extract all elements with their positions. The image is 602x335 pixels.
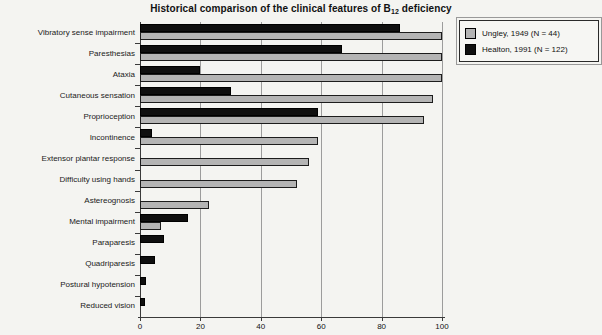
legend-label-ungley: Ungley, 1949 (N = 44) [482,29,560,38]
category-label-ataxia: Ataxia [2,70,135,80]
plot-area [140,22,442,317]
bar-healton-paresthesias [140,45,342,53]
y-axis-tick [135,148,140,149]
x-axis-tick-80 [382,318,383,321]
category-label-astereognosis: Astereognosis [2,196,135,206]
legend-swatch-ungley-icon [465,28,476,39]
x-tick-label-60: 60 [317,322,326,331]
y-axis-tick [135,64,140,65]
y-axis-tick [135,106,140,107]
category-label-paraparesis: Paraparesis [2,238,135,248]
y-axis-tick [135,233,140,234]
category-label-mental-impairment: Mental impairment [2,217,135,227]
chart-title-subscript: 12 [391,8,399,15]
y-axis-tick [135,254,140,255]
bar-ungley-mental-impairment [140,222,161,230]
category-label-quadriparesis: Quadriparesis [2,259,135,269]
y-axis-tick [135,275,140,276]
y-axis-tick [135,43,140,44]
x-tick-label-100: 100 [435,322,448,331]
category-label-proprioception: Proprioception [2,112,135,122]
gridline-80 [382,22,383,317]
x-tick-label-40: 40 [256,322,265,331]
category-label-paresthesias: Paresthesias [2,49,135,59]
legend-label-healton: Healton, 1991 (N = 122) [482,45,568,54]
bar-ungley-difficulty-using-hands [140,180,297,188]
category-label-vibratory-sense-impairment: Vibratory sense impairment [2,28,135,38]
y-axis-tick [135,212,140,213]
bar-ungley-cutaneous-sensation [140,95,433,103]
bar-healton-postural-hypotension [140,277,146,285]
bar-healton-cutaneous-sensation [140,87,231,95]
bar-ungley-ataxia [140,74,442,82]
y-axis-tick [135,191,140,192]
bar-healton-quadriparesis [140,256,155,264]
bar-ungley-proprioception [140,116,424,124]
category-label-cutaneous-sensation: Cutaneous sensation [2,91,135,101]
chart-title-suffix: deficiency [399,3,452,14]
x-tick-label-80: 80 [377,322,386,331]
x-axis-tick-100 [442,318,443,321]
chart-title-text: Historical comparison of the clinical fe… [150,3,391,14]
bar-healton-ataxia [140,66,200,74]
x-axis-tick-20 [200,318,201,321]
category-label-difficulty-using-hands: Difficulty using hands [2,175,135,185]
y-axis-tick [135,85,140,86]
bar-ungley-paresthesias [140,53,442,61]
bar-healton-mental-impairment [140,214,188,222]
x-tick-label-0: 0 [138,322,142,331]
category-label-postural-hypotension: Postural hypotension [2,280,135,290]
legend: Ungley, 1949 (N = 44) Healton, 1991 (N =… [459,20,599,62]
x-axis-tick-60 [321,318,322,321]
bar-healton-incontinence [140,129,152,137]
gridline-20 [200,22,201,317]
bar-healton-paraparesis [140,235,164,243]
figure-b12-deficiency-chart: Historical comparison of the clinical fe… [0,0,602,335]
x-axis-line [138,317,445,318]
category-label-reduced-vision: Reduced vision [2,301,135,311]
legend-swatch-healton-icon [465,44,476,55]
y-axis-tick [135,296,140,297]
bar-ungley-extensor-plantar-response [140,158,309,166]
gridline-60 [321,22,322,317]
bar-healton-vibratory-sense-impairment [140,24,400,32]
bar-ungley-astereognosis [140,201,209,209]
chart-title: Historical comparison of the clinical fe… [0,3,602,15]
gridline-40 [261,22,262,317]
bar-healton-reduced-vision [140,298,145,306]
x-tick-label-20: 20 [196,322,205,331]
category-label-incontinence: Incontinence [2,133,135,143]
y-axis-tick [135,127,140,128]
bar-ungley-incontinence [140,137,318,145]
x-axis-tick-40 [261,318,262,321]
category-label-extensor-plantar-response: Extensor plantar response [2,154,135,164]
bar-healton-proprioception [140,108,318,116]
x-axis-tick-0 [140,318,141,321]
legend-item-ungley: Ungley, 1949 (N = 44) [465,25,593,41]
legend-item-healton: Healton, 1991 (N = 122) [465,41,593,57]
gridline-100 [442,22,443,317]
y-axis-tick [135,170,140,171]
bar-ungley-vibratory-sense-impairment [140,32,442,40]
